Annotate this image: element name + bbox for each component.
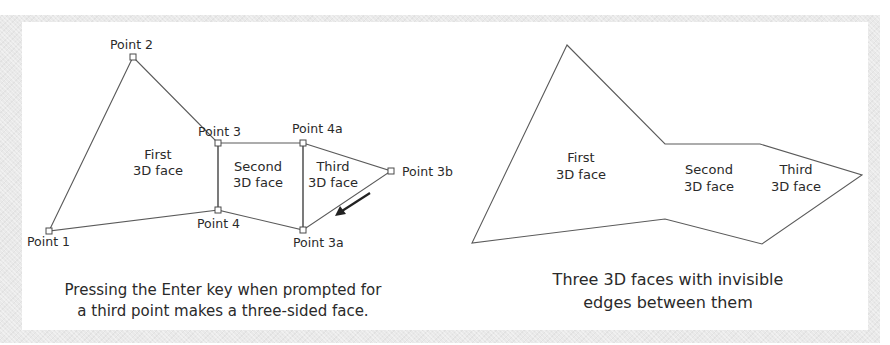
right-caption-line1: Three 3D faces with invisible xyxy=(552,270,784,289)
right-first-face-label-line1: First xyxy=(567,150,594,165)
point-3b-marker xyxy=(388,168,394,174)
left-caption-line2: a third point makes a three-sided face. xyxy=(77,302,368,320)
point-3a-label: Point 3a xyxy=(293,235,344,250)
point-4-label: Point 4 xyxy=(197,216,240,231)
left-second-face-label-line1: Second xyxy=(234,159,282,174)
first-face-outline xyxy=(49,57,218,231)
point-4a-marker xyxy=(300,140,306,146)
3d-faces-diagram: Point 2 Point 3 Point 4a Point 3b Point … xyxy=(0,0,890,345)
left-third-face-label-line2: 3D face xyxy=(308,175,358,190)
right-third-face-label-line1: Third xyxy=(778,162,812,177)
right-second-face-label-line1: Second xyxy=(685,162,733,177)
right-first-face-label-line2: 3D face xyxy=(556,167,606,182)
right-caption-line2: edges between them xyxy=(583,293,753,312)
left-third-face-label-line1: Third xyxy=(315,159,349,174)
point-markers xyxy=(46,54,394,234)
left-first-face-label-line1: First xyxy=(144,147,171,162)
right-combined-outline xyxy=(472,45,862,244)
point-2-marker xyxy=(130,54,136,60)
point-3a-marker xyxy=(300,227,306,233)
point-1-label: Point 1 xyxy=(27,234,70,249)
point-3-marker xyxy=(215,140,221,146)
point-4-marker xyxy=(215,207,221,213)
point-2-label: Point 2 xyxy=(110,37,153,52)
point-3-label: Point 3 xyxy=(198,124,241,139)
point-4a-label: Point 4a xyxy=(292,121,343,136)
left-caption-line1: Pressing the Enter key when prompted for xyxy=(65,281,383,299)
left-second-face-label-line2: 3D face xyxy=(233,175,283,190)
point-3b-label: Point 3b xyxy=(402,164,453,179)
right-second-face-label-line2: 3D face xyxy=(684,179,734,194)
right-third-face-label-line2: 3D face xyxy=(771,179,821,194)
left-first-face-label-line2: 3D face xyxy=(133,163,183,178)
